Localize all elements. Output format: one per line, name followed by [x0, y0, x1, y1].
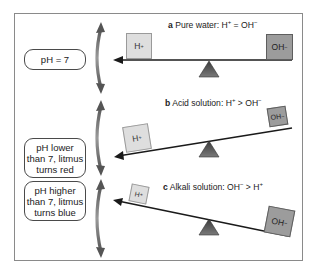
- arrow-left-icon: [114, 151, 124, 160]
- label-alkali: pH higher than 7, litmus turns blue: [24, 181, 86, 221]
- label-neutral-text: pH = 7: [41, 54, 69, 65]
- charge-sup: +: [259, 181, 263, 187]
- label-alkali-line: pH higher: [34, 185, 75, 196]
- caption-pure-water: a Pure water: H+ = OH−: [168, 20, 257, 30]
- caption-text: Alkali solution: OH: [170, 182, 240, 192]
- label-acid-line: pH lower: [36, 142, 74, 153]
- charge-sup: −: [258, 97, 262, 103]
- caption-text: = OH: [231, 20, 254, 30]
- ion-oh-minus: OH−: [267, 106, 289, 128]
- fulcrum-icon: [199, 141, 219, 157]
- caption-text: Acid solution: H: [172, 98, 232, 108]
- charge-sup: −: [254, 19, 258, 25]
- ion-charge: +: [138, 137, 141, 138]
- label-alkali-line: than 7, litmus: [27, 196, 84, 207]
- ion-symbol: OH: [271, 215, 285, 227]
- caption-text: Pure water: H: [175, 20, 228, 30]
- curved-arrow-icon: [96, 22, 105, 94]
- curved-arrow-icon: [96, 179, 105, 258]
- ion-charge: −: [284, 222, 287, 223]
- ion-oh-minus: OH−: [264, 206, 296, 238]
- arrow-left-icon: [113, 198, 123, 206]
- ion-h-plus: H+: [128, 183, 149, 204]
- ion-charge: −: [281, 115, 284, 116]
- label-acid-line: turns red: [36, 164, 74, 175]
- ion-oh-minus: OH−: [266, 34, 293, 60]
- label-acid-line: than 7, litmus: [27, 153, 84, 164]
- label-neutral: pH = 7: [24, 49, 86, 70]
- caption-text: > OH: [235, 98, 258, 108]
- ion-charge: +: [140, 194, 143, 195]
- arrow-left-icon: [113, 56, 123, 64]
- panel-letter: b: [165, 98, 170, 108]
- caption-text: > H: [243, 182, 259, 192]
- panel-letter: c: [163, 182, 168, 192]
- fulcrum-icon: [199, 61, 219, 77]
- ion-h-plus: H+: [122, 123, 152, 153]
- panel-letter: a: [168, 20, 173, 30]
- label-acid: pH lower than 7, litmus turns red: [24, 138, 86, 178]
- label-alkali-line: turns blue: [34, 207, 76, 218]
- ion-h-plus: H+: [126, 33, 152, 59]
- caption-alkali: c Alkali solution: OH− > H+: [163, 182, 263, 192]
- curved-arrow-icon: [96, 100, 105, 176]
- ion-symbol: OH: [272, 42, 285, 52]
- seesaw-alkali: [113, 198, 288, 236]
- caption-acid: b Acid solution: H+ > OH−: [165, 98, 262, 108]
